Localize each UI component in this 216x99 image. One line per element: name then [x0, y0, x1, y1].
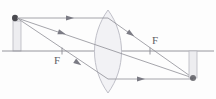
focal-point-label-right: F	[152, 34, 158, 46]
object-body	[13, 21, 21, 51]
image-arrow	[189, 51, 197, 81]
arrowhead-focal-ray-2	[137, 76, 145, 81]
image-body	[189, 51, 197, 78]
arrowhead-central-ray-1	[57, 29, 66, 36]
ray-diagram-canvas: F F	[0, 0, 216, 99]
converging-lens	[95, 10, 122, 93]
focal-point-label-left: F	[54, 54, 60, 66]
image-tip	[190, 75, 196, 81]
arrowhead-focal-ray-1	[73, 59, 83, 68]
ray-diagram-figure: F F	[0, 0, 216, 99]
arrowhead-parallel-ray-1	[66, 15, 74, 20]
arrowhead-parallel-ray-2	[126, 30, 136, 39]
